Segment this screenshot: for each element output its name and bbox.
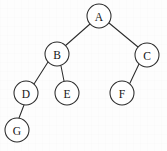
node-label-b: B — [53, 49, 61, 61]
tree-diagram-figure: A B C D E F — [0, 0, 167, 151]
node-group: A B C D E F — [5, 4, 159, 142]
edge-a-c — [109, 23, 138, 47]
tree-svg-canvas: A B C D E F — [0, 0, 167, 151]
node-label-d: D — [22, 88, 30, 100]
tree-node-a[interactable]: A — [87, 4, 111, 28]
tree-node-f[interactable]: F — [110, 81, 134, 105]
tree-node-b[interactable]: B — [45, 42, 69, 66]
node-label-a: A — [95, 11, 104, 23]
tree-node-c[interactable]: C — [135, 43, 159, 67]
edge-a-b — [65, 24, 90, 46]
tree-node-d[interactable]: D — [14, 81, 38, 105]
tree-node-g[interactable]: G — [5, 118, 29, 142]
edge-b-d — [34, 62, 48, 84]
edge-b-e — [61, 66, 64, 81]
node-label-f: F — [119, 88, 125, 100]
edge-d-g — [19, 105, 24, 118]
tree-node-e[interactable]: E — [55, 81, 79, 105]
edge-c-f — [130, 64, 139, 83]
node-label-c: C — [143, 50, 151, 62]
node-label-g: G — [13, 125, 21, 137]
node-label-e: E — [63, 88, 70, 100]
